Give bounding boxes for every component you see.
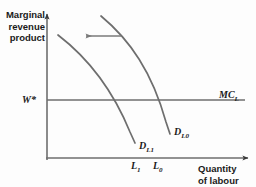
mc-label-text: MC — [219, 89, 235, 100]
dl1-label-subscript: L1 — [146, 146, 154, 154]
labour-market-diagram: Marginal revenue product Quantity of lab… — [0, 0, 256, 187]
wage-level-label: W* — [22, 94, 36, 105]
demand-curve-shifted-label: DL1 — [139, 140, 154, 154]
demand-curve-initial-label: DL0 — [174, 126, 189, 140]
l0-subscript: 0 — [159, 166, 163, 174]
x-tick-label-l0: L0 — [153, 160, 163, 174]
mc-curve-label: MCL — [219, 89, 239, 103]
y-axis-label: Marginal revenue product — [2, 9, 45, 44]
dl0-label-subscript: L0 — [181, 132, 189, 140]
demand-curve-shifted — [58, 35, 135, 143]
demand-curve-initial — [101, 16, 170, 134]
x-tick-label-l1: L1 — [131, 160, 141, 174]
x-axis-label: Quantity of labour — [198, 163, 256, 186]
l1-subscript: 1 — [137, 166, 141, 174]
mc-label-subscript: L — [235, 95, 239, 103]
